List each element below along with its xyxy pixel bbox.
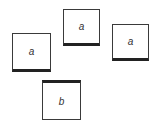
card-a-left: a bbox=[12, 33, 51, 72]
card-label: a bbox=[79, 21, 85, 32]
card-label: a bbox=[128, 36, 134, 47]
card-label: b bbox=[59, 96, 65, 107]
card-a-top: a bbox=[63, 9, 100, 46]
card-a-right: a bbox=[112, 24, 149, 61]
card-b-bottom: b bbox=[42, 80, 81, 120]
card-label: a bbox=[29, 46, 35, 57]
